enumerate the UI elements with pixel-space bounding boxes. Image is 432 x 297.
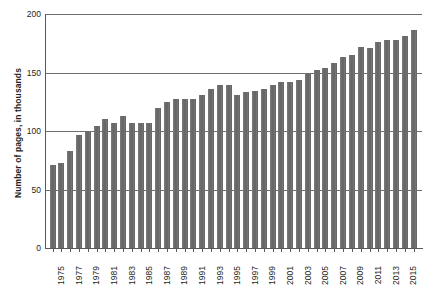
x-tick-label-1989: 1989 [179,266,189,285]
y-tick-label-50: 50 [32,185,41,195]
x-tick-label-1977: 1977 [74,266,84,285]
x-tick-label-1983: 1983 [127,266,137,285]
y-axis-tick-labels: 050100150200 [0,0,41,262]
bar-1981 [102,119,108,248]
bar-2015 [402,36,408,248]
y-tick-label-100: 100 [27,126,41,136]
x-tick-label-1995: 1995 [232,266,242,285]
x-tick-2011 [370,248,371,252]
bar-series [46,14,422,248]
x-tick-label-2003: 2003 [303,266,313,285]
bar-1997 [243,92,249,248]
x-tick-label-1999: 1999 [267,266,277,285]
bar-1976 [58,163,64,248]
bar-2016 [411,30,417,248]
bar-1977 [67,151,73,248]
x-tick-1975 [53,248,54,252]
x-tick-1998 [255,248,256,252]
x-tick-2012 [378,248,379,252]
bar-1979 [85,132,91,248]
x-tick-1988 [167,248,168,252]
x-tick-2002 [290,248,291,252]
x-tick-1991 [193,248,194,252]
x-tick-label-2009: 2009 [355,266,365,285]
x-tick-label-2007: 2007 [338,266,348,285]
x-tick-1979 [88,248,89,252]
bar-2011 [367,48,373,248]
bar-1987 [155,108,161,248]
x-tick-2001 [281,248,282,252]
x-tick-2016 [414,248,415,252]
bar-2001 [278,82,284,248]
x-tick-1984 [132,248,133,252]
x-tick-label-1997: 1997 [250,266,260,285]
x-tick-label-1993: 1993 [215,266,225,285]
x-tick-2008 [343,248,344,252]
x-axis-line [45,248,423,249]
bar-2000 [270,85,276,248]
bar-1995 [226,85,232,248]
bar-2010 [358,47,364,248]
x-tick-1992 [202,248,203,252]
x-tick-label-2011: 2011 [373,266,383,284]
x-tick-1987 [158,248,159,252]
x-tick-label-2015: 2015 [408,266,418,285]
bar-1983 [120,116,126,248]
bar-1998 [252,91,258,248]
x-tick-1986 [149,248,150,252]
y-tick-label-150: 150 [27,68,41,78]
bar-1984 [129,123,135,248]
bar-1988 [164,102,170,248]
bar-1975 [50,165,56,248]
bar-1991 [190,99,196,248]
bar-1996 [234,95,240,248]
x-tick-2004 [308,248,309,252]
bar-1989 [173,99,179,248]
x-tick-2009 [352,248,353,252]
x-tick-1981 [105,248,106,252]
x-tick-2007 [334,248,335,252]
x-tick-2000 [273,248,274,252]
x-tick-1976 [61,248,62,252]
x-tick-label-1985: 1985 [144,266,154,285]
x-tick-1977 [70,248,71,252]
x-tick-1996 [237,248,238,252]
x-tick-1989 [176,248,177,252]
x-tick-2006 [325,248,326,252]
x-tick-label-1979: 1979 [91,266,101,285]
x-tick-1997 [246,248,247,252]
bar-2013 [384,40,390,248]
x-tick-1995 [229,248,230,252]
x-tick-1983 [123,248,124,252]
bar-1992 [199,95,205,248]
x-tick-label-1991: 1991 [197,266,207,285]
bar-1990 [182,99,188,248]
bar-2004 [305,73,311,249]
x-tick-1993 [211,248,212,252]
bar-chart: Number of pages, in thousands 0501001502… [0,0,432,297]
x-tick-label-1975: 1975 [56,266,66,285]
bar-2005 [314,70,320,248]
y-tick-label-200: 200 [27,9,41,19]
bar-2006 [322,68,328,248]
x-tick-label-2013: 2013 [391,266,401,285]
x-tick-label-1987: 1987 [162,266,172,285]
x-tick-1980 [97,248,98,252]
x-tick-1985 [141,248,142,252]
x-tick-2015 [405,248,406,252]
y-tick-label-0: 0 [36,243,41,253]
bar-2007 [331,63,337,248]
x-tick-2014 [396,248,397,252]
plot-area: 1975197719791981198319851987198919911993… [46,14,422,248]
bar-1982 [111,123,117,248]
x-tick-label-2005: 2005 [320,266,330,285]
bar-2012 [375,42,381,248]
bar-1980 [94,126,100,248]
bar-2002 [287,82,293,248]
x-tick-1994 [220,248,221,252]
bar-2003 [296,80,302,248]
bar-2014 [393,40,399,248]
x-tick-1978 [79,248,80,252]
bar-2008 [340,57,346,248]
x-tick-1999 [264,248,265,252]
